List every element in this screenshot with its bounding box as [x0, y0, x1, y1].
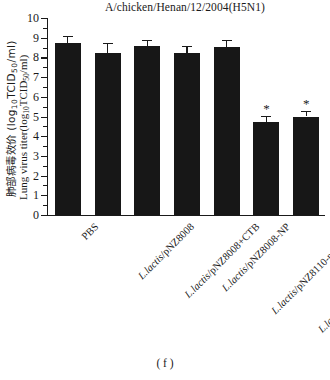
- y-tick-mark: [41, 117, 47, 118]
- y-tick-label: 9: [33, 32, 39, 44]
- error-bar-cap: [301, 111, 311, 112]
- plot-area: 012345678910 **: [47, 18, 325, 215]
- error-bar-cap: [261, 116, 271, 117]
- y-axis-label-english: Lung virus titer(log10TCID50/ml): [17, 55, 31, 200]
- y-axis-label-english-text: Lung virus titer(log10TCID50/ml): [17, 55, 29, 200]
- figure-caption: ( f ): [0, 357, 330, 369]
- error-bar-cap: [63, 36, 73, 37]
- y-tick-mark: [41, 215, 47, 216]
- y-tick-minor-mark: [43, 107, 47, 108]
- y-tick-minor-mark: [43, 67, 47, 68]
- y-tick-label: 6: [33, 91, 39, 103]
- x-axis-line: [47, 215, 325, 216]
- bar: [134, 46, 160, 215]
- y-tick-minor-mark: [43, 166, 47, 167]
- significance-marker: *: [303, 97, 310, 110]
- y-tick-mark: [41, 38, 47, 39]
- x-tick-label: L.lactis/pNZ8008: [135, 221, 195, 281]
- y-tick-label: 5: [33, 111, 39, 123]
- y-tick-label: 8: [33, 51, 39, 63]
- y-tick-minor-mark: [43, 205, 47, 206]
- y-tick-minor-mark: [43, 185, 47, 186]
- x-tick-label: PBS: [79, 221, 100, 242]
- y-tick-label: 10: [27, 12, 39, 24]
- y-tick-minor-mark: [43, 48, 47, 49]
- y-tick-minor-mark: [43, 87, 47, 88]
- y-tick-minor-mark: [43, 146, 47, 147]
- y-tick-minor-mark: [43, 28, 47, 29]
- y-tick-mark: [41, 195, 47, 196]
- bar: [253, 122, 279, 215]
- y-tick-mark: [41, 77, 47, 78]
- y-axis-line: [47, 18, 48, 215]
- y-tick-label: 2: [33, 170, 39, 182]
- x-tick-label: L.lactis/pNZ8110-pgsA-HA1+CTB: [316, 221, 330, 335]
- y-tick-mark: [41, 57, 47, 58]
- bar: [95, 53, 121, 215]
- y-tick-mark: [41, 18, 47, 19]
- bar: [55, 43, 81, 215]
- error-bar-cap: [142, 40, 152, 41]
- error-bar-cap: [182, 46, 192, 47]
- y-tick-label: 1: [33, 189, 39, 201]
- y-tick-label: 3: [33, 150, 39, 162]
- y-tick-minor-mark: [43, 126, 47, 127]
- error-bar-cap: [222, 40, 232, 41]
- y-tick-label: 7: [33, 71, 39, 83]
- y-tick-mark: [41, 176, 47, 177]
- error-bar-cap: [103, 43, 113, 44]
- bar: [174, 53, 200, 215]
- error-bar-line: [107, 43, 108, 54]
- significance-marker: *: [263, 102, 270, 115]
- y-tick-mark: [41, 97, 47, 98]
- chart-title: A/chicken/Henan/12/2004(H5N1): [60, 1, 310, 13]
- figure-panel: A/chicken/Henan/12/2004(H5N1) 肺部病毒效价 (lo…: [0, 0, 330, 380]
- y-tick-mark: [41, 156, 47, 157]
- y-tick-label: 4: [33, 130, 39, 142]
- y-axis-label-chinese-text: 肺部病毒效价 (log10TCID50/ml): [5, 40, 17, 197]
- bar: [214, 47, 240, 215]
- y-tick-label: 0: [33, 209, 39, 221]
- bar: [293, 117, 319, 216]
- y-tick-mark: [41, 136, 47, 137]
